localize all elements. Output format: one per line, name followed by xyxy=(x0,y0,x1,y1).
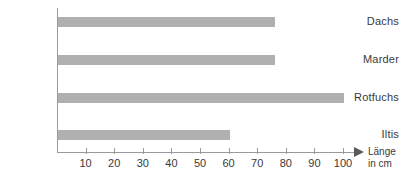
x-axis-tick-label: 20 xyxy=(99,158,129,169)
x-axis-tick xyxy=(343,148,344,154)
category-label: Rotfuchs xyxy=(346,92,399,103)
bar xyxy=(58,93,344,103)
bar xyxy=(58,17,275,27)
x-axis-tick xyxy=(257,148,258,154)
x-axis-tick xyxy=(143,148,144,154)
x-axis-tick-label: 70 xyxy=(242,158,272,169)
x-axis-tick xyxy=(114,148,115,154)
x-axis-tick-label: 40 xyxy=(156,158,186,169)
x-axis-title-line-2: in cm xyxy=(368,158,396,170)
x-axis-tick-label: 30 xyxy=(128,158,158,169)
bar xyxy=(58,55,275,65)
x-axis-title: Länge in cm xyxy=(368,146,396,169)
category-label: Dachs xyxy=(346,16,399,27)
x-axis-tick xyxy=(200,148,201,154)
x-axis-tick-label: 60 xyxy=(214,158,244,169)
x-axis-tick xyxy=(86,148,87,154)
category-label: Marder xyxy=(346,54,399,65)
x-axis-tick-label: 80 xyxy=(271,158,301,169)
x-axis-tick-label: 90 xyxy=(299,158,329,169)
x-axis-tick-label: 50 xyxy=(185,158,215,169)
x-axis-tick xyxy=(171,148,172,154)
bar xyxy=(58,130,230,140)
x-axis-title-line-1: Länge xyxy=(368,146,396,158)
category-label: Iltis xyxy=(346,129,399,140)
x-axis-arrow-icon xyxy=(354,147,364,157)
bar-chart: DachsMarderRotfuchsIltis 102030405060708… xyxy=(0,0,399,182)
x-axis-tick-label: 10 xyxy=(71,158,101,169)
x-axis-tick xyxy=(229,148,230,154)
x-axis-tick-label: 100 xyxy=(328,158,358,169)
x-axis-tick xyxy=(286,148,287,154)
x-axis-tick xyxy=(314,148,315,154)
